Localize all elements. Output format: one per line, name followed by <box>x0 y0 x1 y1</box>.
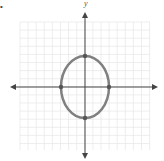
vertex-point-right <box>107 85 111 89</box>
vertex-point-top <box>83 54 87 58</box>
arrow-left-icon <box>10 84 16 90</box>
axes <box>10 12 158 159</box>
arrow-down-icon <box>82 153 88 159</box>
vertex-point-bottom <box>83 116 87 120</box>
coordinate-plane <box>0 0 164 161</box>
arrow-up-icon <box>82 12 88 18</box>
arrow-right-icon <box>152 84 158 90</box>
vertex-point-left <box>59 85 63 89</box>
